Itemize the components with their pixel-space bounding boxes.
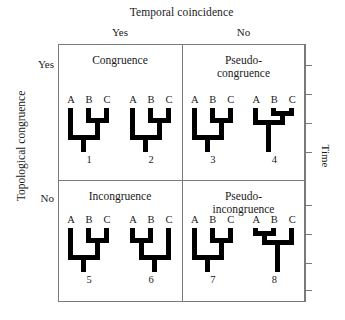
tree-4-glyph	[250, 106, 298, 156]
time-axis-tick	[305, 123, 312, 124]
tree-7: A B C 7	[189, 214, 237, 288]
taxon-a-label: A	[128, 94, 138, 105]
tree-8-number: 8	[250, 274, 298, 285]
tree-1-taxa: A B C	[65, 94, 113, 106]
taxon-a-label: A	[128, 214, 138, 225]
tree-pair-1: A B C 1	[58, 94, 182, 168]
row-header-no: No	[20, 192, 54, 204]
taxon-c-label: C	[164, 214, 174, 225]
cell-label-pseudo-congruence: Pseudo- congruence	[182, 54, 305, 79]
tree-5-taxa: A B C	[65, 214, 113, 226]
cell-incongruence: Incongruence A B C	[58, 180, 182, 302]
tree-5-glyph	[65, 226, 113, 276]
cell-label-incongruence: Incongruence	[58, 190, 182, 203]
cell-congruence: Congruence A B C	[58, 44, 182, 180]
tree-8: A B C 8	[250, 214, 298, 288]
taxon-a-label: A	[66, 94, 76, 105]
taxon-b-label: B	[84, 214, 94, 225]
taxon-b-label: B	[146, 94, 156, 105]
taxon-c-label: C	[287, 94, 297, 105]
tree-4: A B C 4	[250, 94, 298, 168]
tree-1-glyph	[65, 106, 113, 156]
taxon-c-label: C	[164, 94, 174, 105]
tree-3: A B C 3	[189, 94, 237, 168]
taxon-b-label: B	[269, 214, 279, 225]
tree-5: A B C 5	[65, 214, 113, 288]
taxon-a-label: A	[190, 94, 200, 105]
taxon-a-label: A	[190, 214, 200, 225]
time-axis-tick	[305, 263, 312, 264]
tree-pair-3: A B C 5	[58, 214, 182, 288]
tree-3-taxa: A B C	[189, 94, 237, 106]
cell-label-pseudo-incongruence: Pseudo- incongruence	[182, 190, 305, 215]
tree-pair-4: A B C 7	[182, 214, 305, 288]
taxon-b-label: B	[84, 94, 94, 105]
time-axis-tick	[305, 290, 312, 291]
column-header-no: No	[182, 26, 305, 38]
taxon-a-label: A	[251, 214, 261, 225]
time-axis-tick	[305, 94, 312, 95]
time-axis-tick	[305, 65, 312, 66]
cell-pseudo-congruence: Pseudo- congruence A B C	[182, 44, 305, 180]
column-header-yes: Yes	[58, 26, 182, 38]
taxon-c-label: C	[102, 214, 112, 225]
taxon-b-label: B	[269, 94, 279, 105]
taxon-a-label: A	[66, 214, 76, 225]
tree-1: A B C 1	[65, 94, 113, 168]
tree-8-taxa: A B C	[250, 214, 298, 226]
tree-8-glyph	[250, 226, 298, 276]
taxon-b-label: B	[208, 94, 218, 105]
taxon-b-label: B	[146, 214, 156, 225]
tree-5-number: 5	[65, 274, 113, 285]
tree-2-taxa: A B C	[127, 94, 175, 106]
tree-4-taxa: A B C	[250, 94, 298, 106]
time-axis-tick	[305, 152, 312, 153]
column-axis-title: Temporal coincidence	[58, 6, 305, 18]
row-axis-title: Topological congruence	[15, 51, 27, 241]
tree-6-taxa: A B C	[127, 214, 175, 226]
taxon-a-label: A	[251, 94, 261, 105]
row-header-yes: Yes	[20, 58, 54, 70]
taxon-c-label: C	[102, 94, 112, 105]
tree-6-glyph	[127, 226, 175, 276]
tree-7-taxa: A B C	[189, 214, 237, 226]
taxon-c-label: C	[226, 94, 236, 105]
tree-2: A B C 2	[127, 94, 175, 168]
tree-6: A B C 6	[127, 214, 175, 288]
taxon-c-label: C	[226, 214, 236, 225]
time-axis-tick	[305, 234, 312, 235]
tree-7-number: 7	[189, 274, 237, 285]
cell-label-congruence: Congruence	[58, 54, 182, 67]
tree-3-glyph	[189, 106, 237, 156]
figure-panel: Temporal coincidence Yes No Topological …	[0, 0, 345, 320]
cell-pseudo-incongruence: Pseudo- incongruence A B C	[182, 180, 305, 302]
taxon-b-label: B	[208, 214, 218, 225]
tree-7-glyph	[189, 226, 237, 276]
tree-pair-2: A B C 3	[182, 94, 305, 168]
tree-6-number: 6	[127, 274, 175, 285]
taxon-c-label: C	[287, 214, 297, 225]
tree-2-glyph	[127, 106, 175, 156]
tree-4-number: 4	[250, 154, 298, 165]
tree-2-number: 2	[127, 154, 175, 165]
tree-3-number: 3	[189, 154, 237, 165]
time-axis-tick	[305, 205, 312, 206]
time-axis-label: Time	[320, 129, 332, 183]
tree-1-number: 1	[65, 154, 113, 165]
